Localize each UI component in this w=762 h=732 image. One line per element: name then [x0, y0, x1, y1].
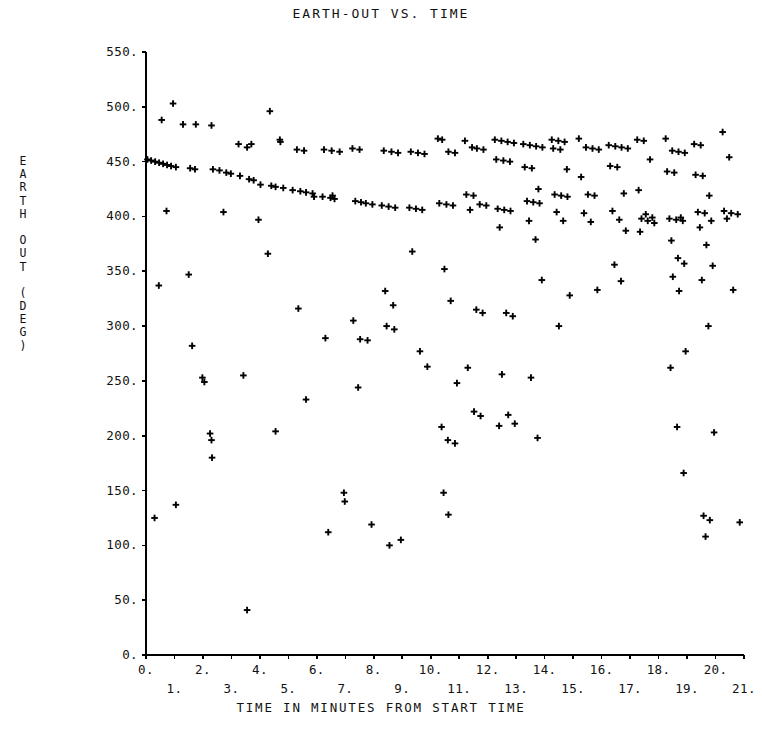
data-point	[550, 145, 557, 152]
x-axis-tick-label-even: 20.	[694, 662, 738, 677]
data-point	[156, 159, 163, 166]
data-point	[450, 202, 457, 209]
data-point	[151, 515, 158, 522]
x-axis-tick-label-odd: 21.	[722, 681, 762, 696]
data-point	[268, 182, 275, 189]
data-point	[736, 519, 743, 526]
data-point	[585, 191, 592, 198]
data-point	[605, 142, 612, 149]
x-axis-tick-label-even: 0.	[124, 662, 168, 677]
data-point	[462, 138, 469, 145]
data-point	[637, 229, 644, 236]
x-axis-tick-label-odd: 15.	[551, 681, 595, 696]
data-point	[607, 163, 614, 170]
data-point	[173, 501, 180, 508]
data-point	[467, 207, 474, 214]
data-point	[701, 210, 708, 217]
data-point	[301, 147, 308, 154]
data-point	[535, 186, 542, 193]
data-point	[341, 489, 348, 496]
y-axis-tick-label: 200.	[82, 428, 138, 443]
data-point	[697, 142, 704, 149]
data-point	[680, 470, 687, 477]
data-point	[511, 420, 518, 427]
data-point	[454, 380, 461, 387]
data-point	[528, 374, 535, 381]
data-point	[669, 147, 676, 154]
data-point	[706, 192, 713, 199]
data-point	[173, 164, 180, 171]
x-axis-tick-label-even: 6.	[295, 662, 339, 677]
data-point	[500, 157, 507, 164]
data-point	[666, 215, 673, 222]
data-point	[164, 162, 171, 169]
data-point	[255, 216, 262, 223]
data-point	[369, 201, 376, 208]
data-point	[705, 323, 712, 330]
data-point	[681, 150, 688, 157]
data-point	[463, 191, 470, 198]
data-point	[496, 423, 503, 430]
data-point	[621, 190, 628, 197]
data-point	[388, 148, 395, 155]
data-point	[730, 287, 737, 294]
data-point	[675, 148, 682, 155]
data-point	[576, 135, 583, 142]
data-point	[336, 148, 343, 155]
data-point	[363, 200, 370, 207]
x-axis-tick-label-even: 14.	[523, 662, 567, 677]
data-point	[419, 207, 426, 214]
y-axis-tick-label: 150.	[82, 483, 138, 498]
data-point	[452, 150, 459, 157]
data-point	[477, 413, 484, 420]
x-axis-tick-label-odd: 13.	[494, 681, 538, 696]
data-point	[443, 201, 450, 208]
x-axis-tick-label-odd: 17.	[608, 681, 652, 696]
data-point	[415, 150, 422, 157]
data-point	[395, 150, 402, 157]
data-point	[707, 517, 714, 524]
data-point	[470, 192, 477, 199]
data-point	[210, 166, 217, 173]
data-point	[504, 139, 511, 146]
y-axis-tick-label: 250.	[82, 373, 138, 388]
data-point	[248, 141, 255, 148]
data-point	[440, 489, 447, 496]
x-axis-tick-label-even: 12.	[466, 662, 510, 677]
data-point	[609, 208, 616, 215]
data-point	[703, 242, 710, 249]
data-point	[566, 292, 573, 299]
data-point	[614, 164, 621, 171]
data-point	[341, 498, 348, 505]
data-point	[349, 145, 356, 152]
data-point	[662, 135, 669, 142]
y-axis-tick-label: 450.	[82, 154, 138, 169]
data-point	[364, 337, 371, 344]
data-point	[616, 216, 623, 223]
data-point	[527, 142, 534, 149]
data-point	[158, 117, 165, 124]
data-point	[383, 323, 390, 330]
data-point	[479, 310, 486, 317]
data-point	[267, 108, 274, 115]
data-point	[494, 205, 501, 212]
data-point	[612, 143, 619, 150]
y-axis-tick-label: 0.	[82, 647, 138, 662]
data-point	[192, 166, 199, 173]
data-point	[625, 145, 632, 152]
data-point	[708, 218, 715, 225]
data-point	[303, 189, 310, 196]
x-axis-tick-label-even: 16.	[580, 662, 624, 677]
data-point	[699, 277, 706, 284]
data-point	[676, 288, 683, 295]
data-point	[421, 151, 428, 158]
data-point	[524, 198, 531, 205]
data-point	[634, 136, 641, 143]
data-point	[640, 138, 647, 145]
data-point	[670, 273, 677, 280]
data-point	[534, 435, 541, 442]
data-point	[557, 146, 564, 153]
data-point	[289, 187, 296, 194]
y-axis-tick-label: 500.	[82, 99, 138, 114]
data-point	[664, 168, 671, 175]
